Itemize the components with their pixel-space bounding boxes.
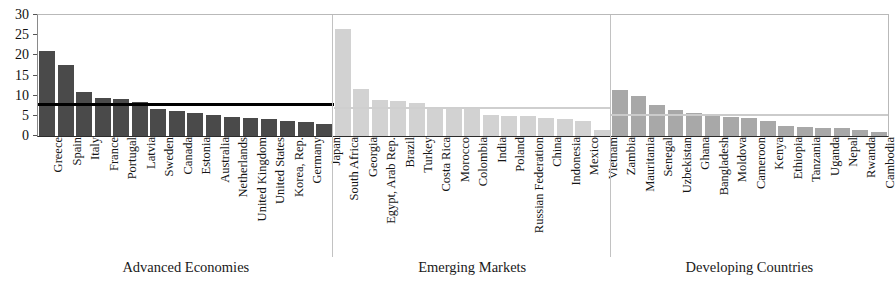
bar <box>298 122 314 136</box>
bar <box>501 116 517 136</box>
bar <box>871 132 887 136</box>
bar <box>316 124 332 136</box>
bar <box>132 102 148 136</box>
category-label-text: Georgia <box>367 137 380 177</box>
group-average-line <box>334 107 611 109</box>
bar <box>335 29 351 136</box>
bar <box>852 130 868 136</box>
category-label: Cameroon <box>755 137 768 189</box>
bar <box>58 65 74 136</box>
category-label-text: Zambia <box>625 137 638 175</box>
y-tick-label: 20 <box>15 48 29 62</box>
category-label-text: Netherlands <box>237 137 250 197</box>
bar <box>280 121 296 136</box>
category-label: Tanzania <box>810 137 823 182</box>
category-label: United States <box>274 137 287 204</box>
category-label: China <box>551 137 564 167</box>
bar <box>76 92 92 136</box>
bar <box>39 51 55 137</box>
group-caption: Developing Countries <box>686 258 814 276</box>
category-label: Rwanda <box>865 137 878 178</box>
category-label: Australia <box>219 137 232 183</box>
category-label-text: Cameroon <box>755 137 768 189</box>
category-label: Turkey <box>422 137 435 173</box>
category-label-text: Uzbekistan <box>681 137 694 193</box>
bar <box>150 109 166 136</box>
bar <box>464 108 480 136</box>
category-label-text: France <box>108 137 121 171</box>
category-label: Korea, Rep. <box>293 137 306 197</box>
category-label: Zambia <box>625 137 638 175</box>
bar <box>557 119 573 136</box>
group-captions: Advanced EconomiesEmerging MarketsDevelo… <box>38 258 888 284</box>
category-label-text: Egypt, Arab Rep. <box>385 137 398 224</box>
category-label: Uganda <box>829 137 842 176</box>
category-label-text: Kenya <box>773 137 786 170</box>
category-label-text: Mexico <box>588 137 601 175</box>
group-caption: Emerging Markets <box>418 258 526 276</box>
group-average-line <box>38 103 334 106</box>
category-label-text: Australia <box>219 137 232 183</box>
category-label-text: United States <box>274 137 287 204</box>
bar <box>631 96 647 136</box>
category-label-text: United Kingdom <box>256 137 269 221</box>
category-label: Poland <box>514 137 527 172</box>
category-label-text: Portugal <box>126 137 139 179</box>
category-label-text: Nepal <box>847 137 860 167</box>
category-label: Germany <box>311 137 324 184</box>
category-label: South Africa <box>348 137 361 201</box>
category-label-text: Colombia <box>477 137 490 186</box>
bar <box>760 121 776 136</box>
bar <box>224 117 240 136</box>
category-label: United Kingdom <box>256 137 269 221</box>
bar <box>705 116 721 136</box>
category-label: Egypt, Arab Rep. <box>385 137 398 224</box>
bar <box>612 90 628 136</box>
bar <box>723 117 739 136</box>
category-label-text: Mauritania <box>644 137 657 192</box>
y-tick-label: 30 <box>15 8 29 22</box>
category-label-text: Korea, Rep. <box>293 137 306 197</box>
bar <box>446 108 462 136</box>
bars-layer <box>38 15 888 136</box>
category-label-text: Ghana <box>699 137 712 170</box>
bar <box>834 128 850 136</box>
category-label-text: Rwanda <box>865 137 878 178</box>
category-label-text: Greece <box>52 137 65 172</box>
y-axis: 051015202530 <box>0 14 33 137</box>
category-label: Costa Rica <box>440 137 453 192</box>
category-label: Canada <box>182 137 195 174</box>
category-label-text: Sweden <box>163 137 176 177</box>
category-label-text: Brazil <box>404 137 417 168</box>
category-label-text: India <box>496 137 509 163</box>
category-label-text: Poland <box>514 137 527 172</box>
bar <box>575 121 591 136</box>
category-label: Mauritania <box>644 137 657 192</box>
group-caption: Advanced Economies <box>122 258 249 276</box>
category-label-text: Indonesia <box>570 137 583 186</box>
category-label-text: South Africa <box>348 137 361 201</box>
category-label-text: Canada <box>182 137 195 174</box>
bar <box>243 118 259 136</box>
category-label: India <box>496 137 509 163</box>
category-label: Ethiopia <box>792 137 805 179</box>
category-label-text: Ethiopia <box>792 137 805 179</box>
category-label: Colombia <box>477 137 490 186</box>
category-label-text: Germany <box>311 137 324 184</box>
category-label-text: Cambodia <box>884 137 895 188</box>
category-label-text: Senegal <box>662 137 675 177</box>
y-tick-label: 5 <box>22 109 29 123</box>
category-label-text: Tanzania <box>810 137 823 182</box>
category-label: Sweden <box>163 137 176 177</box>
bar <box>372 100 388 136</box>
bar <box>815 128 831 136</box>
category-label: Greece <box>52 137 65 172</box>
category-label: Brazil <box>404 137 417 168</box>
bar <box>390 101 406 136</box>
category-label: Italy <box>89 137 102 160</box>
bar <box>169 111 185 136</box>
category-label: Moldova <box>736 137 749 182</box>
category-axis-labels: GreeceSpainItalyFrancePortugalLatviaSwed… <box>38 137 888 249</box>
group-separator <box>610 15 611 257</box>
category-label-text: China <box>551 137 564 167</box>
